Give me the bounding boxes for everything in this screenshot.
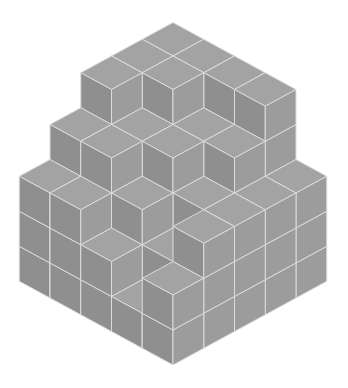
- isometric-cube-stack: [0, 0, 348, 388]
